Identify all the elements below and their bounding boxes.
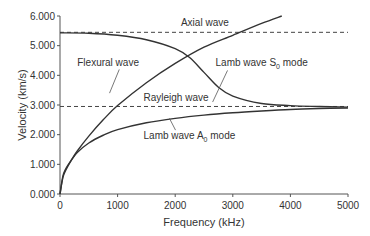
x-tick-label: 2000 xyxy=(164,200,187,211)
y-tick-label: 0.000 xyxy=(30,189,55,200)
y-tick-label: 2.000 xyxy=(30,129,55,140)
leader-line xyxy=(169,118,175,130)
lamb-wave-a0-label: Lamb wave A0 mode xyxy=(144,130,236,143)
x-tick-label: 3000 xyxy=(222,200,245,211)
y-tick-label: 1.000 xyxy=(30,159,55,170)
y-tick-label: 6.000 xyxy=(30,11,55,22)
velocity-frequency-chart: 0.0001.0002.0003.0004.0005.0006.00001000… xyxy=(0,0,370,236)
rayleigh-wave-label: Rayleigh wave xyxy=(144,92,209,103)
leader-line xyxy=(213,70,228,102)
x-tick-label: 5000 xyxy=(337,200,360,211)
y-axis-label: Velocity (km/s) xyxy=(16,69,28,141)
y-tick-label: 4.000 xyxy=(30,70,55,81)
annotations: Axial waveFlexural waveLamb wave S0 mode… xyxy=(77,17,308,143)
axes: 0.0001.0002.0003.0004.0005.0006.00001000… xyxy=(30,11,360,212)
x-axis-label: Frequency (kHz) xyxy=(163,216,244,228)
y-tick-label: 5.000 xyxy=(30,40,55,51)
y-tick-label: 3.000 xyxy=(30,100,55,111)
flexural-wave-label: Flexural wave xyxy=(77,57,139,68)
x-tick-label: 1000 xyxy=(106,200,129,211)
lamb-wave-a0-mode-curve xyxy=(60,108,348,194)
leader-line xyxy=(110,69,120,93)
axial-wave-label: Axial wave xyxy=(181,17,229,28)
flexural-wave-curve xyxy=(60,16,282,194)
series-group xyxy=(60,16,348,194)
chart-svg: 0.0001.0002.0003.0004.0005.0006.00001000… xyxy=(0,0,370,236)
x-tick-label: 0 xyxy=(57,200,63,211)
x-tick-label: 4000 xyxy=(279,200,302,211)
lamb-wave-s0-label: Lamb wave S0 mode xyxy=(216,57,309,70)
